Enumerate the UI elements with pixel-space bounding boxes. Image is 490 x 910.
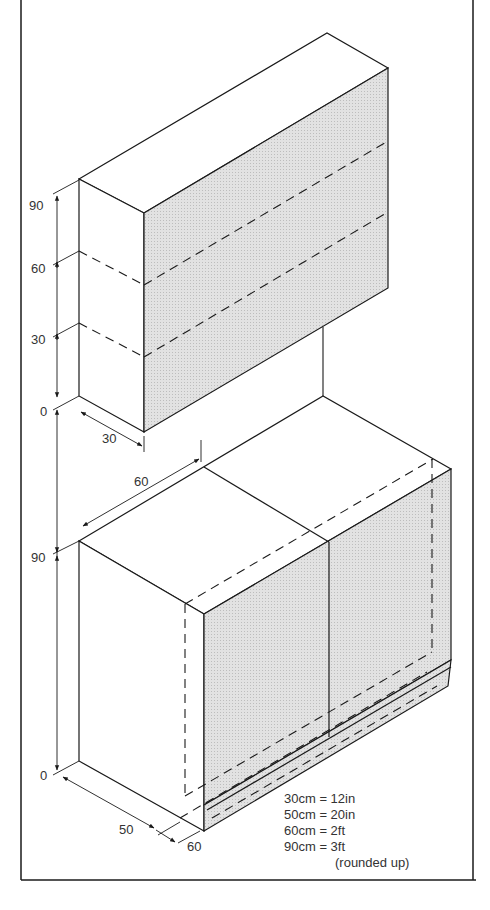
base-width-label: 60 <box>134 474 148 489</box>
wall-cabinet-side <box>79 179 144 432</box>
wall-cabinet <box>79 33 388 432</box>
base-height-0-label: 0 <box>40 768 47 783</box>
legend-line-50cm: 50cm = 20in <box>284 807 355 822</box>
wall-height-0-label: 0 <box>40 404 47 419</box>
base-cabinet <box>79 396 451 831</box>
cabinet-dimension-diagram: 90 60 30 0 30 60 90 0 50 60 30cm = 12in … <box>0 0 490 910</box>
legend-line-30cm: 30cm = 12in <box>284 791 355 806</box>
diagram-canvas: 90 60 30 0 30 60 90 0 50 60 30cm = 12in … <box>0 0 490 910</box>
legend-line-90cm: 90cm = 3ft <box>284 839 345 854</box>
legend-line-60cm: 60cm = 2ft <box>284 823 345 838</box>
wall-height-90-label: 90 <box>29 198 43 213</box>
wall-depth-label: 30 <box>102 431 116 446</box>
legend-note: (rounded up) <box>335 855 409 870</box>
base-height-90-label: 90 <box>31 550 45 565</box>
plinth-label: 60 <box>187 839 201 854</box>
wall-height-30-label: 30 <box>31 332 45 347</box>
conversion-legend: 30cm = 12in 50cm = 20in 60cm = 2ft 90cm … <box>284 791 409 870</box>
base-depth-label: 50 <box>119 822 133 837</box>
wall-height-60-label: 60 <box>31 261 45 276</box>
